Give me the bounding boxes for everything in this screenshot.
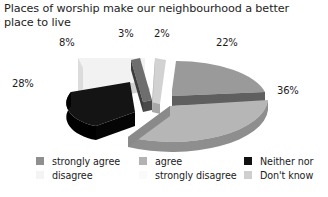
slice-label-disagree: 8% — [59, 37, 74, 48]
pie-slice-dont-know — [152, 58, 166, 114]
slice-label-dont-know: 2% — [154, 28, 169, 39]
legend-label: agree — [155, 156, 182, 167]
legend-item-dont-know[interactable]: Don't know — [244, 168, 313, 182]
legend-item-neither-nor[interactable]: Neither nor — [244, 154, 313, 168]
pie-chart-plot-area: 22% 36% 28% 8% 3% 2% — [0, 34, 328, 152]
legend-row-2: disagree strongly disagree Don't know — [0, 168, 328, 182]
legend-label: Don't know — [260, 170, 313, 181]
legend-label: Neither nor — [260, 156, 313, 167]
legend-swatch-icon — [36, 157, 44, 165]
legend-swatch-icon — [139, 171, 147, 179]
legend-label: disagree — [52, 170, 92, 181]
legend-swatch-icon — [244, 171, 252, 179]
legend-label: strongly disagree — [155, 170, 237, 181]
pie-chart-figure: Places of worship make our neighbourhood… — [0, 0, 328, 197]
legend-swatch-icon — [36, 171, 44, 179]
legend-row-1: strongly agree agree Neither nor — [0, 154, 328, 168]
slice-label-neither-nor: 28% — [12, 78, 34, 89]
legend-item-agree[interactable]: agree — [139, 154, 182, 168]
slice-label-strongly-agree: 22% — [216, 37, 238, 48]
pie-slice-neither-nor — [66, 82, 135, 140]
slice-label-agree: 36% — [277, 85, 299, 96]
legend-swatch-icon — [139, 157, 147, 165]
pie-slice-strongly-agree — [172, 61, 265, 106]
chart-title: Places of worship make our neighbourhood… — [4, 2, 322, 29]
legend-item-strongly-agree[interactable]: strongly agree — [36, 154, 120, 168]
chart-legend: strongly agree agree Neither nor disagre… — [0, 154, 328, 186]
legend-item-strongly-disagree[interactable]: strongly disagree — [139, 168, 237, 182]
slice-label-strongly-disagree: 3% — [118, 28, 133, 39]
legend-swatch-icon — [244, 157, 252, 165]
legend-label: strongly agree — [52, 156, 120, 167]
legend-item-disagree[interactable]: disagree — [36, 168, 92, 182]
